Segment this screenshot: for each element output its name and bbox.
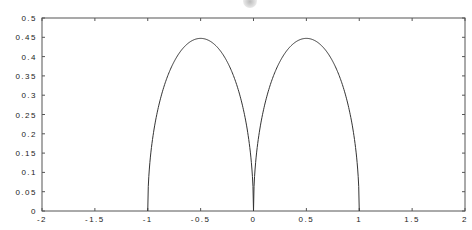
x-tick-label: 1.5 [404, 215, 420, 224]
data-series-curve [148, 38, 360, 211]
y-tick-label: 0.2 [21, 130, 37, 139]
x-tick-label: -2 [37, 215, 47, 224]
y-tick-label: 0.35 [15, 72, 37, 81]
x-tick-label: -1.5 [85, 215, 105, 224]
y-tick-label: 0.1 [21, 168, 37, 177]
y-tick-label: 0.25 [15, 111, 37, 120]
x-axis: -2-1.5-1-0.500.511.52 [37, 18, 468, 224]
line-chart: -2-1.5-1-0.500.511.52 00.050.10.150.20.2… [0, 0, 472, 230]
y-tick-label: 0.3 [21, 91, 37, 100]
x-tick-label: -0.5 [191, 215, 211, 224]
x-tick-label: 1 [356, 215, 362, 224]
y-tick-label: 0.5 [21, 14, 37, 23]
y-tick-label: 0.05 [15, 188, 37, 197]
y-axis: 00.050.10.150.20.250.30.350.40.450.5 [15, 14, 465, 216]
x-tick-label: 2 [462, 215, 468, 224]
x-tick-label: 0 [251, 215, 257, 224]
y-tick-label: 0.45 [15, 33, 37, 42]
y-tick-label: 0.4 [21, 53, 37, 62]
x-tick-label: 0.5 [299, 215, 315, 224]
plot-frame [42, 18, 465, 211]
y-tick-label: 0.15 [15, 149, 37, 158]
x-tick-label: -1 [143, 215, 153, 224]
y-tick-label: 0 [31, 207, 37, 216]
